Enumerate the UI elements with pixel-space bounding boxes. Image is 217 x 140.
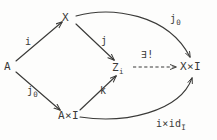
node-X-times-I: X×I [180, 61, 201, 72]
node-Z-i: Zi [112, 62, 124, 76]
edge-label-j0-lower-subscript: 0 [33, 90, 38, 99]
arrow-AxI-to-Z [80, 76, 116, 110]
commutative-diagram: X A Zi A×I X×I i j j0 k j0 i×idI ∃! [0, 0, 217, 140]
edge-label-j0-lower: j0 [27, 86, 38, 99]
node-A-label: A [4, 60, 11, 73]
arrow-AxI-to-XxI-curve [80, 78, 192, 119]
edge-label-i-text: i [25, 36, 31, 47]
node-XxI-label: X×I [180, 60, 201, 73]
edge-label-ixid-base: i×id [156, 118, 181, 129]
arrow-A-to-AxI [16, 72, 60, 110]
edge-label-j-text: j [101, 35, 107, 46]
node-Z-base: Z [112, 61, 119, 74]
node-X-label: X [62, 11, 69, 24]
edge-label-ixid-subscript: I [181, 123, 186, 132]
arrow-A-to-X [16, 22, 62, 61]
node-Z-subscript: i [119, 67, 124, 76]
edge-label-i-times-id-I: i×idI [156, 119, 186, 132]
arrow-X-to-Z [76, 24, 114, 60]
node-X: X [62, 12, 69, 23]
node-AxI-label: A×I [58, 109, 79, 122]
edge-label-k: k [100, 86, 106, 96]
edge-label-exists-unique: ∃! [141, 50, 154, 60]
edge-label-i: i [25, 37, 31, 47]
node-A: A [4, 61, 11, 72]
edge-label-j0-top: j0 [170, 14, 181, 27]
edge-label-exists-unique-text: ∃! [141, 49, 154, 60]
edge-label-j: j [101, 36, 107, 46]
edge-label-k-text: k [100, 85, 106, 96]
edge-label-j0-top-subscript: 0 [176, 18, 181, 27]
node-A-times-I: A×I [58, 110, 79, 121]
